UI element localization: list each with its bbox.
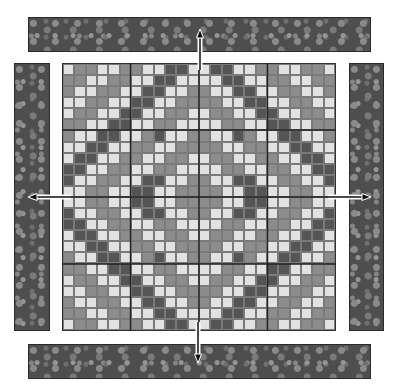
quilt-square [165,164,176,175]
quilt-square [301,263,312,274]
quilt-square [222,263,233,274]
quilt-square [142,164,153,175]
quilt-square [324,286,335,297]
quilt-square [244,263,255,274]
quilt-square [301,297,312,308]
quilt-square [222,186,233,197]
quilt-square [154,219,165,230]
quilt-square [188,308,199,319]
quilt-square [97,108,108,119]
quilt-square [165,208,176,219]
quilt-square [324,263,335,274]
quilt-square [290,186,301,197]
quilt-square [165,297,176,308]
quilt-square [63,208,74,219]
quilt-square [267,252,278,263]
quilt-square [188,275,199,286]
quilt-square [108,119,119,130]
quilt-square [312,86,323,97]
quilt-square [86,308,97,319]
quilt-square [199,275,210,286]
quilt-square [233,108,244,119]
quilt-square [165,175,176,186]
quilt-square [324,86,335,97]
quilt-square [108,197,119,208]
quilt-square [154,153,165,164]
quilt-square [210,275,221,286]
quilt-square [244,64,255,75]
quilt-square [244,108,255,119]
quilt-square [222,75,233,86]
quilt-square [63,219,74,230]
quilt-square [176,197,187,208]
quilt-square [256,208,267,219]
quilt-square [324,130,335,141]
quilt-square [278,275,289,286]
quilt-square [108,153,119,164]
quilt-square [142,142,153,153]
quilt-square [210,86,221,97]
quilt-square [244,130,255,141]
quilt-square [267,286,278,297]
quilt-square [131,175,142,186]
quilt-square [176,86,187,97]
quilt-square [176,297,187,308]
quilt-square [290,153,301,164]
quilt-square [210,230,221,241]
quilt-square [86,297,97,308]
quilt-square [267,263,278,274]
quilt-square [199,153,210,164]
quilt-square [63,97,74,108]
quilt-square [233,252,244,263]
quilt-square [324,275,335,286]
quilt-square [63,230,74,241]
quilt-square [278,308,289,319]
quilt-square [324,164,335,175]
quilt-square [97,219,108,230]
quilt-square [301,86,312,97]
quilt-square [108,64,119,75]
quilt-square [256,275,267,286]
quilt-square [131,64,142,75]
quilt-square [74,153,85,164]
quilt-square [267,219,278,230]
quilt-square [312,308,323,319]
quilt-square [86,97,97,108]
quilt-square [165,308,176,319]
quilt-square [222,153,233,164]
quilt-square [267,64,278,75]
quilt-square [74,308,85,319]
quilt-square [210,308,221,319]
quilt-square [233,241,244,252]
quilt-square [256,241,267,252]
quilt-square [74,219,85,230]
quilt-square [301,142,312,153]
quilt-square [120,208,131,219]
quilt-square [233,208,244,219]
quilt-square [74,142,85,153]
quilt-square [165,263,176,274]
quilt-square [120,319,131,330]
quilt-square [97,197,108,208]
quilt-square [278,241,289,252]
quilt-square [86,275,97,286]
quilt-square [120,197,131,208]
quilt-square [74,64,85,75]
quilt-square [210,119,221,130]
quilt-square [278,164,289,175]
quilt-square [165,197,176,208]
quilt-square [188,186,199,197]
quilt-square [244,197,255,208]
quilt-square [165,64,176,75]
quilt-square [222,241,233,252]
quilt-square [312,97,323,108]
quilt-square [278,208,289,219]
quilt-square [256,142,267,153]
quilt-square [108,319,119,330]
quilt-square [188,286,199,297]
quilt-square [63,252,74,263]
quilt-square [142,275,153,286]
quilt-square [176,97,187,108]
quilt-square [222,230,233,241]
quilt-square [97,297,108,308]
